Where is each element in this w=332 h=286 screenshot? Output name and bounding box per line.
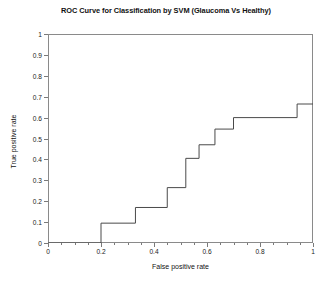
x-minor-tick: [273, 243, 274, 245]
roc-chart-figure: ROC Curve for Classification by SVM (Gla…: [0, 0, 332, 286]
x-minor-tick: [194, 243, 195, 245]
roc-curve: [48, 34, 313, 243]
x-tick-0.2: [101, 243, 102, 247]
roc-curve-path: [48, 104, 313, 243]
x-tick-0.6: [207, 243, 208, 247]
y-tick-label-0.6: 0.6: [33, 114, 42, 121]
x-tick-label-0: 0: [46, 248, 50, 255]
y-tick-label-0.4: 0.4: [33, 156, 42, 163]
y-tick-label-0.2: 0.2: [33, 198, 42, 205]
x-minor-tick: [234, 243, 235, 245]
x-minor-tick: [128, 243, 129, 245]
x-minor-tick: [88, 243, 89, 245]
chart-title: ROC Curve for Classification by SVM (Gla…: [0, 6, 332, 15]
y-tick-label-0.5: 0.5: [33, 135, 42, 142]
y-tick-label-0: 0: [38, 240, 42, 247]
x-tick-0.8: [260, 243, 261, 247]
x-minor-tick: [300, 243, 301, 245]
y-tick-label-0.9: 0.9: [33, 51, 42, 58]
x-minor-tick: [75, 243, 76, 245]
x-axis-title: False positive rate: [48, 263, 313, 270]
x-minor-tick: [167, 243, 168, 245]
x-tick-0.4: [154, 243, 155, 247]
y-tick-label-0.7: 0.7: [33, 93, 42, 100]
x-tick-label-0.4: 0.4: [149, 248, 158, 255]
plot-area: 00.10.20.30.40.50.60.70.80.91 00.20.40.6…: [48, 34, 313, 243]
y-tick-label-0.8: 0.8: [33, 72, 42, 79]
x-tick-1: [313, 243, 314, 247]
x-minor-tick: [287, 243, 288, 245]
x-minor-tick: [114, 243, 115, 245]
x-minor-tick: [181, 243, 182, 245]
x-tick-0: [48, 243, 49, 247]
x-minor-tick: [141, 243, 142, 245]
y-axis-title: True positive rate: [10, 82, 17, 202]
x-minor-tick: [247, 243, 248, 245]
y-tick-label-1: 1: [38, 31, 42, 38]
y-tick-label-0.3: 0.3: [33, 177, 42, 184]
x-minor-tick: [61, 243, 62, 245]
x-minor-tick: [220, 243, 221, 245]
x-tick-label-0.2: 0.2: [96, 248, 105, 255]
x-tick-label-1: 1: [311, 248, 315, 255]
y-tick-label-0.1: 0.1: [33, 219, 42, 226]
x-tick-label-0.6: 0.6: [202, 248, 211, 255]
x-tick-label-0.8: 0.8: [255, 248, 264, 255]
